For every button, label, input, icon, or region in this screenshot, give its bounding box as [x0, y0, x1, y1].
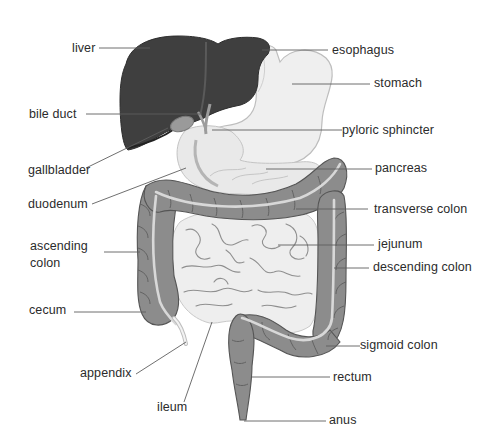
- label-ileum: ileum: [157, 400, 187, 415]
- label-cecum: cecum: [29, 303, 66, 318]
- label-bile-duct: bile duct: [29, 107, 76, 122]
- label-descending-colon: descending colon: [373, 260, 472, 275]
- digestive-system-illustration: [0, 0, 500, 446]
- appendix: [174, 318, 186, 344]
- label-duodenum: duodenum: [28, 197, 88, 212]
- small-intestine: [171, 208, 319, 333]
- label-anus: anus: [329, 413, 357, 428]
- label-esophagus: esophagus: [332, 43, 394, 58]
- label-jejunum: jejunum: [378, 237, 422, 252]
- label-pyloric-sphincter: pyloric sphincter: [342, 123, 434, 138]
- label-rectum: rectum: [333, 370, 372, 385]
- label-stomach: stomach: [374, 76, 422, 91]
- label-transverse-colon: transverse colon: [374, 202, 467, 217]
- label-ascending-colon: ascending colon: [30, 238, 110, 272]
- label-appendix: appendix: [80, 366, 132, 381]
- label-pancreas: pancreas: [375, 161, 427, 176]
- leader-ileum: [184, 322, 212, 402]
- label-gallbladder: gallbladder: [28, 163, 90, 178]
- leader-appendix: [136, 342, 186, 374]
- label-liver: liver: [72, 41, 95, 56]
- label-sigmoid-colon: sigmoid colon: [360, 338, 438, 353]
